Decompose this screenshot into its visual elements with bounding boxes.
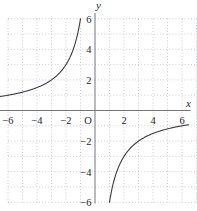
hyperbola-branch-quadrant-4 [110,125,189,203]
x-tick-label: −6 [2,115,13,126]
y-axis-label: y [95,0,101,11]
hyperbola-branch-quadrant-2 [0,19,80,97]
y-tick-label: −4 [80,167,92,178]
function-plot: −6−4−2246642−2−4−6 x y O [0,0,197,211]
x-tick-label: 4 [150,115,156,126]
x-tick-label: 2 [121,115,126,126]
y-tick-label: −2 [80,136,91,147]
y-tick-label: 2 [86,75,91,86]
y-tick-label: 4 [86,44,92,55]
x-tick-label: 6 [179,115,184,126]
graph-figure: −6−4−2246642−2−4−6 x y O [0,0,197,211]
x-tick-label: −2 [60,115,71,126]
y-tick-label: 6 [86,14,91,25]
x-axis-label: x [185,97,191,109]
origin-label: O [84,115,92,126]
x-tick-label: −4 [31,115,43,126]
y-tick-label: −6 [80,197,91,208]
